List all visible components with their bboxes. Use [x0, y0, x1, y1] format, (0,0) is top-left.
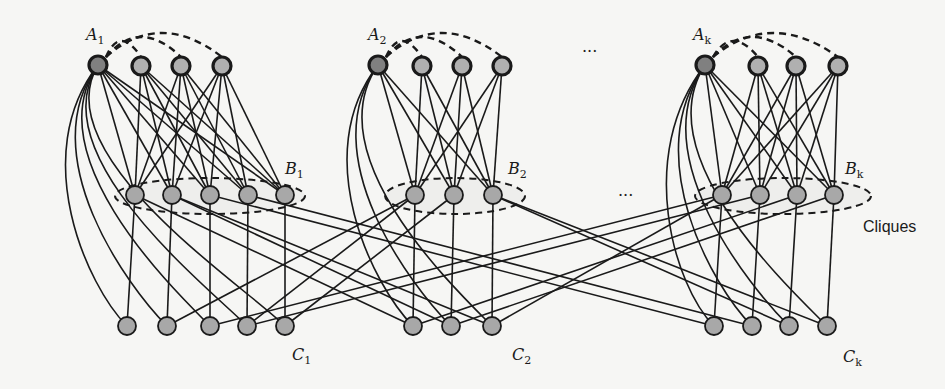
dashed-arc: [386, 41, 422, 57]
label-c-2: C2: [512, 345, 531, 367]
ellipsis-mid: ...: [618, 181, 633, 200]
b-node: [751, 186, 769, 204]
c-node: [743, 317, 761, 335]
b-node: [406, 186, 424, 204]
top-node: [172, 57, 190, 75]
c-node: [483, 317, 501, 335]
top-dashed-arcs: [106, 33, 838, 57]
a-node: [696, 56, 714, 74]
top-node: [453, 57, 471, 75]
dashed-arc: [386, 33, 502, 57]
a-node: [369, 56, 387, 74]
c-node: [276, 317, 294, 335]
top-node: [493, 57, 511, 75]
label-a-1: A1: [84, 25, 105, 47]
c-node: [201, 317, 219, 335]
cliques-label: Cliques: [863, 218, 916, 235]
top-node: [829, 57, 847, 75]
b-node: [126, 186, 144, 204]
label-b-k: Bk: [844, 159, 864, 181]
top-node: [749, 57, 767, 75]
a-node: [89, 56, 107, 74]
cross-edge: [492, 195, 722, 326]
top-node: [132, 57, 150, 75]
label-c-k: Ck: [843, 347, 862, 369]
c-node: [404, 317, 422, 335]
b-node: [201, 186, 219, 204]
b-node: [713, 186, 731, 204]
b-node: [239, 186, 257, 204]
label-a-k: Ak: [691, 25, 712, 47]
clique-reduction-diagram: ... ... Cliques A1B1C1A2B2C2AkBkCk: [0, 0, 945, 389]
ellipsis-top: ...: [582, 37, 597, 56]
c-node: [158, 317, 176, 335]
c-node: [442, 317, 460, 335]
dashed-arc: [713, 33, 838, 57]
c-node: [705, 317, 723, 335]
b-node: [788, 186, 806, 204]
c-node: [118, 317, 136, 335]
label-a-2: A2: [366, 25, 387, 47]
top-node: [413, 57, 431, 75]
b-node: [825, 186, 843, 204]
top-node: [787, 57, 805, 75]
b-node: [484, 186, 502, 204]
label-b-2: B2: [507, 159, 527, 181]
b-node: [445, 186, 463, 204]
label-c-1: C1: [292, 345, 311, 367]
cross-edge: [413, 195, 797, 326]
top-node: [213, 57, 231, 75]
b-node: [276, 186, 294, 204]
b-node: [163, 186, 181, 204]
c-node: [238, 317, 256, 335]
label-b-1: B1: [284, 159, 304, 181]
cross-edge: [167, 195, 415, 326]
dashed-arc: [106, 41, 141, 57]
c-node: [780, 317, 798, 335]
c-node: [818, 317, 836, 335]
